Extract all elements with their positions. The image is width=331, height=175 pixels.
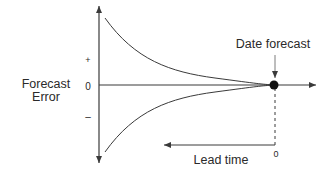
forecast-date-dot xyxy=(270,81,279,90)
tick-minus: – xyxy=(85,111,91,122)
upper-error-curve xyxy=(105,18,274,85)
date-forecast-label: Date forecast xyxy=(236,37,311,51)
y-axis-label-line1: Forecast xyxy=(22,77,71,91)
tick-zero: 0 xyxy=(85,81,91,92)
tick-plus: + xyxy=(85,55,90,65)
lower-error-curve xyxy=(105,85,274,152)
forecast-error-funnel-diagram: Forecast Error + 0 – Date forecast Lead … xyxy=(0,0,331,175)
y-axis-label-line2: Error xyxy=(32,90,60,104)
lead-time-zero-label: 0 xyxy=(273,149,278,159)
lead-time-label: Lead time xyxy=(194,153,249,167)
